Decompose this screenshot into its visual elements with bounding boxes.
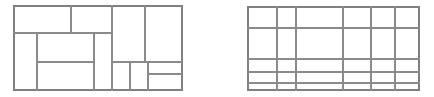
uneven-grid-figure: [0, 0, 434, 97]
diagram-canvas: [0, 0, 434, 97]
uneven-grid-svg: [0, 0, 434, 97]
